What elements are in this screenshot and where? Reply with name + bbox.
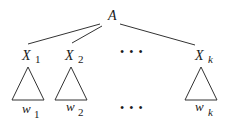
child-subscript: 2: [78, 53, 84, 65]
leaf-subscript: 2: [78, 106, 84, 118]
child-var-label: X: [194, 48, 204, 63]
leaf-subscript: k: [208, 106, 214, 118]
edge-root-x2: [72, 26, 102, 43]
leaf-var-label: w: [22, 101, 31, 116]
child-var-label: X: [64, 48, 74, 63]
edge-root-xk: [120, 24, 195, 45]
child-node-1: X 1 w 1: [12, 48, 44, 120]
subtree-triangle: [12, 67, 44, 100]
root-label: A: [107, 8, 117, 23]
leaf-subscript: 1: [34, 108, 40, 120]
child-node-k: X k w k: [185, 48, 217, 118]
subtree-triangle: [55, 67, 87, 100]
ellipsis-top: • • •: [120, 45, 144, 59]
parse-tree-diagram: A X 1 w 1 X 2 w 2 X k w k • • • • • •: [0, 0, 227, 125]
child-var-label: X: [21, 48, 31, 63]
leaf-var-label: w: [195, 99, 204, 114]
edge-root-x1: [28, 24, 100, 44]
ellipsis-bottom: • • •: [120, 101, 144, 115]
child-subscript: k: [208, 53, 214, 65]
child-subscript: 1: [35, 53, 41, 65]
leaf-var-label: w: [66, 99, 75, 114]
subtree-triangle: [185, 67, 217, 100]
child-node-2: X 2 w 2: [55, 48, 87, 118]
